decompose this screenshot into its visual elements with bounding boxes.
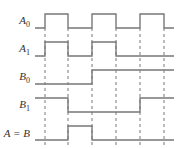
- label-b0: B0: [0, 70, 30, 85]
- time-marker-dashed-lines: [45, 28, 164, 145]
- waveform-a1: [35, 42, 174, 56]
- label-a-equals-b: A = B: [0, 127, 30, 142]
- label-a1: A1: [0, 42, 30, 57]
- label-b1: B1: [0, 98, 30, 113]
- label-a0: A0: [0, 14, 30, 29]
- waveform-a-b: [35, 126, 174, 140]
- waveform-b1: [35, 98, 174, 112]
- waveform-b0: [35, 70, 174, 84]
- waveform-a0: [35, 14, 174, 28]
- signal-waveforms: [35, 14, 174, 140]
